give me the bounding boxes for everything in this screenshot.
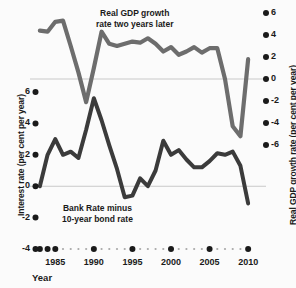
x-tick-dot-major bbox=[91, 246, 97, 252]
left-tick-dot bbox=[33, 120, 39, 126]
x-tick-dot-minor bbox=[232, 248, 234, 250]
x-tick-dot-minor bbox=[139, 248, 141, 250]
left-tick-label: 2 bbox=[14, 149, 30, 159]
right-tick-dot bbox=[263, 120, 269, 126]
x-tick-dot-minor bbox=[224, 248, 226, 250]
bank-annotation-line-2: 10-year bond rate bbox=[62, 214, 133, 225]
gdp-annotation-line-2: rate two years later bbox=[96, 19, 173, 30]
left-tick-dot bbox=[33, 152, 39, 158]
x-tick-dot-minor bbox=[124, 248, 126, 250]
left-tick-dot bbox=[33, 89, 39, 95]
chart-figure: Interest rate (per cent per year) Real G… bbox=[0, 0, 296, 288]
x-tick-dot-minor bbox=[70, 248, 72, 250]
left-tick-dot bbox=[33, 246, 39, 252]
left-tick-label: -4 bbox=[14, 243, 30, 253]
x-tick-label: 2000 bbox=[155, 257, 187, 267]
bank-rate-series-annotation: Bank Rate minus 10-year bond rate bbox=[62, 203, 133, 224]
right-tick-label: 4 bbox=[271, 29, 289, 39]
x-tick-dot-minor bbox=[178, 248, 180, 250]
x-tick-dot-minor bbox=[100, 248, 102, 250]
right-tick-label: -4 bbox=[271, 117, 289, 127]
x-tick-label: 2010 bbox=[232, 257, 264, 267]
right-tick-label: 0 bbox=[271, 73, 289, 83]
x-tick-dot-minor bbox=[216, 248, 218, 250]
left-tick-label: 4 bbox=[14, 117, 30, 127]
x-tick-label: 1985 bbox=[39, 257, 71, 267]
right-tick-dot bbox=[263, 10, 269, 16]
x-tick-dot-minor bbox=[108, 248, 110, 250]
right-tick-label: -6 bbox=[271, 139, 289, 149]
x-tick-dot-minor bbox=[85, 248, 87, 250]
x-tick-label: 2005 bbox=[194, 257, 226, 267]
x-tick-dot-minor bbox=[239, 248, 241, 250]
right-tick-dot bbox=[263, 32, 269, 38]
gdp-annotation-line-1: Real GDP growth bbox=[96, 8, 173, 19]
left-tick-label: 0 bbox=[14, 180, 30, 190]
right-tick-label: 6 bbox=[271, 7, 289, 17]
right-tick-label: -2 bbox=[271, 95, 289, 105]
x-tick-dot-minor bbox=[193, 248, 195, 250]
x-tick-label: 1995 bbox=[116, 257, 148, 267]
right-tick-label: 2 bbox=[271, 51, 289, 61]
x-tick-dot-major bbox=[168, 246, 174, 252]
right-tick-dot bbox=[263, 98, 269, 104]
left-tick-label: 6 bbox=[14, 86, 30, 96]
gdp-series-annotation: Real GDP growth rate two years later bbox=[96, 8, 173, 29]
chart-background bbox=[0, 0, 296, 288]
chart-plot-area bbox=[0, 0, 296, 288]
left-tick-dot bbox=[33, 183, 39, 189]
x-tick-dot-major bbox=[129, 246, 135, 252]
x-tick-dot-minor bbox=[201, 248, 203, 250]
left-tick-label: -2 bbox=[14, 212, 30, 222]
x-axis-title: Year bbox=[32, 272, 52, 283]
left-tick-dot bbox=[33, 215, 39, 221]
x-tick-dot-major bbox=[52, 246, 58, 252]
x-tick-dot-minor bbox=[162, 248, 164, 250]
x-tick-dot-minor bbox=[116, 248, 118, 250]
x-tick-dot-major bbox=[245, 246, 251, 252]
x-tick-dot-minor bbox=[185, 248, 187, 250]
right-tick-dot bbox=[263, 54, 269, 60]
x-tick-dot-major bbox=[207, 246, 213, 252]
bank-annotation-line-1: Bank Rate minus bbox=[62, 203, 133, 214]
x-tick-dot-major bbox=[45, 246, 51, 252]
x-tick-dot-minor bbox=[147, 248, 149, 250]
x-tick-label: 1990 bbox=[78, 257, 110, 267]
x-tick-dot-minor bbox=[77, 248, 79, 250]
right-tick-dot bbox=[263, 76, 269, 82]
x-tick-dot-minor bbox=[62, 248, 64, 250]
x-tick-dot-minor bbox=[154, 248, 156, 250]
right-tick-dot bbox=[263, 142, 269, 148]
